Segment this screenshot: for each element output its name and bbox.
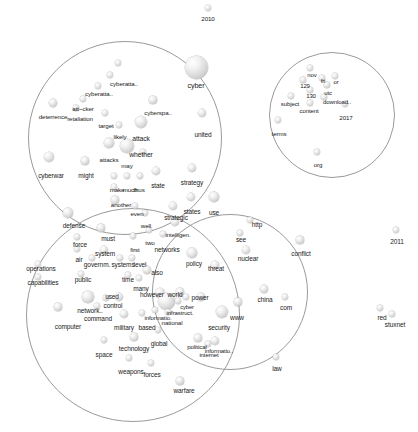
node-political[interactable] [194,334,201,341]
node-www[interactable] [234,298,241,305]
node-label-also: also [151,270,163,277]
node-military[interactable] [120,310,128,318]
node-informatio[interactable] [152,307,158,313]
node-make[interactable] [111,173,117,179]
node-label-see: see [236,237,246,244]
node-law[interactable] [273,354,280,361]
node-cyberatta[interactable] [95,83,101,89]
node-policy[interactable] [187,248,196,257]
node-label-nuclear: nuclear [238,256,259,263]
node-label-used: used [105,294,119,301]
node-cyberwar[interactable] [44,152,55,163]
node-label-system: system [95,251,115,258]
node-label-2017: 2017 [339,115,352,121]
node-label-whether: whether [129,152,152,159]
node-label-level: level [134,262,147,269]
node-even[interactable] [132,203,138,209]
node-stuxnet[interactable] [389,311,395,317]
node-thus[interactable] [137,173,143,179]
node-label-united: united [194,132,211,139]
node-technology[interactable] [130,333,137,340]
node-subject[interactable] [288,93,294,99]
node-strategy[interactable] [188,164,196,172]
node-label-power: power [191,295,208,302]
node-strategic[interactable] [169,202,177,210]
node-much[interactable] [124,173,130,179]
node-deterrence[interactable] [49,99,57,107]
node-label-or: or [333,79,338,85]
node-states[interactable] [187,193,196,202]
node-label-technology: technology [119,346,149,353]
node-security[interactable] [216,306,228,318]
cluster-circle-download-terms-cluster [269,52,395,178]
node-label-might: might [78,173,93,180]
node-global[interactable] [155,327,161,333]
node-label-cyberspa: cyberspa.. [144,110,172,116]
node-computer[interactable] [54,303,61,310]
node-label-129: 129 [300,83,310,89]
node-weapons[interactable] [126,355,133,362]
node-label-cyber: cyber [187,82,204,89]
node-unlabeled[interactable] [115,60,122,67]
node-label-intelligen: intelligen. [165,232,190,238]
node-informatio[interactable] [211,337,220,346]
node-content[interactable] [307,100,313,106]
node-label-states: states [184,209,201,216]
node-first[interactable] [130,233,136,239]
node-space[interactable] [101,337,107,343]
node-label-state: state [151,183,165,190]
node-label-capabilities: capabilities [28,280,59,287]
node-label-attack: attack [132,136,150,143]
node-label-stuxnet: stuxnet [385,322,405,329]
node-label-military: military [114,325,134,332]
node-label-policy: policy [186,261,202,268]
node-attack[interactable] [135,116,147,128]
node-label-command: command [84,316,112,323]
node-conflict[interactable] [296,236,303,243]
node-label-terms: terms [272,131,287,137]
node-state[interactable] [152,167,161,176]
node-2010[interactable] [205,5,211,11]
node-label-china: china [257,297,272,304]
node-label-two: two [145,240,154,246]
node-label-2010: 2010 [201,16,214,22]
node-label-cyberatta: cyberatta.. [110,81,138,87]
node-china[interactable] [260,285,268,293]
node-target[interactable] [102,110,109,117]
node-force[interactable] [74,234,80,240]
node-cyberatta[interactable] [107,72,113,78]
node-cyber[interactable] [185,56,208,79]
node-label-strategic: strategic [164,215,188,222]
node-cyber[interactable] [183,294,189,300]
node-label-world: world [167,292,182,299]
node-terms[interactable] [275,117,282,124]
node-129[interactable] [300,77,306,83]
node-label-public: public [75,277,91,284]
node-use[interactable] [209,192,218,201]
node-2011[interactable] [393,227,399,233]
node-united[interactable] [198,109,206,117]
node-red[interactable] [377,305,383,311]
node-nuclear[interactable] [242,246,250,254]
node-org[interactable] [314,149,320,155]
node-warfare[interactable] [176,377,183,384]
node-defense[interactable] [63,208,72,217]
node-forces[interactable] [148,360,154,366]
node-network[interactable] [82,291,93,302]
node-attacks[interactable] [104,138,113,147]
node-label-operations: operations [26,266,55,273]
node-label-weapons: weapons [118,369,143,376]
node-likely[interactable] [116,122,122,128]
node-many[interactable] [136,275,142,281]
node-label-internet: internet [199,352,218,358]
node-nov[interactable] [307,65,313,71]
node-label-law: law [272,366,281,373]
node-com[interactable] [282,294,288,300]
cluster-circle-military-operations-cluster [26,208,240,422]
node-label-subject: subject [281,101,299,107]
node-might[interactable] [81,157,88,164]
node-label-however: however [140,292,164,299]
node-label-cyberwar: cyberwar [38,173,64,180]
node-cyberspa[interactable] [149,96,156,103]
node-must[interactable] [97,224,104,231]
